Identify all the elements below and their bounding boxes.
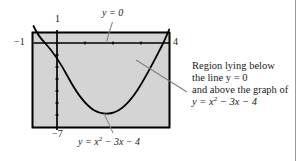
figure-page: 1 −1 4 −7 y = 0 y = x2 − 3x − 4 Region l… xyxy=(0,0,303,161)
line-equation-label: y = 0 xyxy=(102,7,123,19)
curve-eq-rest: − 3x − 4 xyxy=(102,136,140,147)
y-axis-bottom-label: −7 xyxy=(52,128,63,140)
curve-equation-label: y = x2 − 3x − 4 xyxy=(78,136,140,148)
annotation-eq-y: y = xyxy=(192,96,209,107)
region-annotation-line-1: Region lying below xyxy=(192,60,288,72)
x-left-intercept-label: −1 xyxy=(14,36,25,48)
annotation-eq-rest: − 3x − 4 xyxy=(217,96,257,107)
curve-eq-y: y = xyxy=(78,136,94,147)
region-annotation-line-3: and above the graph of xyxy=(192,84,288,96)
region-annotation-line-2: the line y = 0 xyxy=(192,72,288,84)
x-right-intercept-label: 4 xyxy=(173,36,178,48)
y-axis-top-label: 1 xyxy=(55,13,60,25)
region-annotation: Region lying below the line y = 0 and ab… xyxy=(192,60,288,108)
region-annotation-line-4: y = x2 − 3x − 4 xyxy=(192,96,288,108)
